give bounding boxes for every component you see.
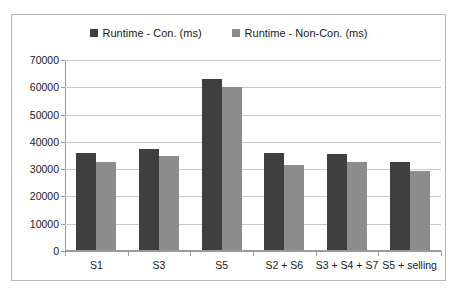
chart-container: Runtime - Con. (ms) Runtime - Non-Con. (…: [11, 14, 446, 281]
bar-group: [65, 60, 128, 251]
x-axis-tick-mark: [441, 251, 442, 256]
bars-layer: [65, 60, 441, 251]
bar-runtime-non-con[interactable]: [222, 87, 242, 251]
plot-area: 700006000050000400003000020000100000 S1S…: [65, 60, 441, 251]
bar-runtime-con[interactable]: [327, 154, 347, 251]
y-axis-tick-label: 20000: [30, 190, 59, 202]
legend-label-runtime-con: Runtime - Con. (ms): [103, 27, 202, 39]
bar-runtime-non-con[interactable]: [96, 162, 116, 251]
y-axis-tick-label: 10000: [30, 218, 59, 230]
y-axis-tick-label: 0: [53, 245, 59, 257]
x-axis-tick-label: S5 + selling: [382, 259, 437, 271]
y-axis-tick-label: 70000: [30, 54, 59, 66]
x-axis-tick-mark: [65, 251, 66, 256]
square-marker-icon: [232, 29, 240, 37]
x-axis-tick-label: S3 + S4 + S7: [316, 259, 378, 271]
bar-group: [190, 60, 253, 251]
bar-group: [316, 60, 379, 251]
legend-label-runtime-non-con: Runtime - Non-Con. (ms): [245, 27, 368, 39]
bar-runtime-non-con[interactable]: [284, 165, 304, 251]
bar-group: [378, 60, 441, 251]
legend-entry-runtime-non-con: Runtime - Non-Con. (ms): [232, 27, 368, 39]
bar-runtime-con[interactable]: [202, 79, 222, 251]
x-axis-tick-mark: [128, 251, 129, 256]
bar-runtime-non-con[interactable]: [347, 162, 367, 251]
y-axis-tick-label: 40000: [30, 136, 59, 148]
bar-runtime-con[interactable]: [390, 162, 410, 251]
y-axis-tick-label: 30000: [30, 163, 59, 175]
bar-group: [253, 60, 316, 251]
x-axis-tick-mark: [316, 251, 317, 256]
y-axis-tick-label: 60000: [30, 81, 59, 93]
square-marker-icon: [90, 29, 98, 37]
bar-group: [128, 60, 191, 251]
bar-runtime-con[interactable]: [76, 153, 96, 251]
x-axis-tick-label: S2 + S6: [266, 259, 304, 271]
bar-runtime-con[interactable]: [139, 149, 159, 251]
x-axis-tick-mark: [190, 251, 191, 256]
legend-entry-runtime-con: Runtime - Con. (ms): [90, 27, 202, 39]
x-axis-tick-mark: [378, 251, 379, 256]
x-axis-tick-mark: [253, 251, 254, 256]
x-axis-tick-label: S3: [153, 259, 166, 271]
chart-legend: Runtime - Con. (ms) Runtime - Non-Con. (…: [12, 27, 445, 39]
clipped-header-text: · · · · ·· · · ·· · ·· ·: [0, 0, 457, 10]
bar-runtime-non-con[interactable]: [410, 171, 430, 251]
bar-runtime-con[interactable]: [264, 153, 284, 251]
y-axis-tick-label: 50000: [30, 109, 59, 121]
x-axis-tick-label: S5: [215, 259, 228, 271]
bar-runtime-non-con[interactable]: [159, 156, 179, 252]
x-axis-tick-label: S1: [90, 259, 103, 271]
